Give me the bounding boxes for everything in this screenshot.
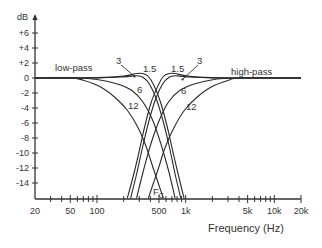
- y-axis-arrow-icon: [32, 14, 37, 20]
- curve-label-low-pass: 3: [116, 55, 121, 66]
- leader-dot-low-pass-3: [133, 75, 135, 77]
- x-axis-title: Frequency (Hz): [208, 222, 284, 234]
- curve-label-high-pass: 12: [186, 101, 197, 112]
- y-tick-label: -12: [16, 163, 29, 173]
- y-tick-label: +2: [19, 58, 29, 68]
- leader-line-low-pass-3: [121, 65, 134, 76]
- x-tick-label: 20k: [294, 206, 309, 216]
- x-tick-label: 5k: [243, 206, 253, 216]
- x-tick-label: 1k: [181, 206, 191, 216]
- curve-low-pass-1-5: [35, 73, 184, 198]
- curve-label-high-pass: 1.5: [171, 63, 184, 74]
- y-axis-title: dB: [17, 12, 28, 22]
- y-tick-label: -10: [16, 148, 29, 158]
- y-tick-label: +6: [19, 28, 29, 38]
- axes-group: +6+4+20-2-4-6-8-10-12-14 20501005001k5k1…: [16, 14, 309, 216]
- y-tick-label: -2: [21, 88, 29, 98]
- fc-subscript: C: [159, 192, 164, 199]
- curve-label-low-pass: 12: [128, 100, 139, 111]
- x-tick-label: 50: [65, 206, 75, 216]
- y-tick-label: +4: [19, 43, 29, 53]
- high-pass-label: high-pass: [231, 66, 272, 77]
- x-ticks: 20501005001k5k10k20k: [30, 195, 309, 216]
- curve-high-pass-6: [137, 78, 301, 198]
- curves-group: [35, 73, 301, 198]
- y-tick-label: -6: [21, 118, 29, 128]
- y-tick-label: -8: [21, 133, 29, 143]
- curve-label-high-pass: 3: [197, 55, 202, 66]
- y-tick-label: -4: [21, 103, 29, 113]
- curve-label-low-pass: 1.5: [143, 63, 156, 74]
- x-tick-label: 20: [30, 206, 40, 216]
- curve-low-pass-12: [35, 78, 163, 198]
- y-tick-label: 0: [24, 73, 29, 83]
- curve-label-high-pass: 6: [181, 85, 186, 96]
- x-tick-label: 10k: [267, 206, 282, 216]
- x-tick-label: 100: [89, 206, 104, 216]
- low-pass-label: low-pass: [55, 62, 93, 73]
- filter-response-chart: +6+4+20-2-4-6-8-10-12-14 20501005001k5k1…: [0, 0, 322, 248]
- x-tick-label: 500: [151, 206, 166, 216]
- curve-high-pass-3: [131, 76, 301, 198]
- leader-dot-high-pass-3: [181, 78, 183, 80]
- y-tick-label: -14: [16, 178, 29, 188]
- center-frequency-label: FC: [153, 186, 164, 199]
- curve-label-low-pass: 6: [137, 84, 142, 95]
